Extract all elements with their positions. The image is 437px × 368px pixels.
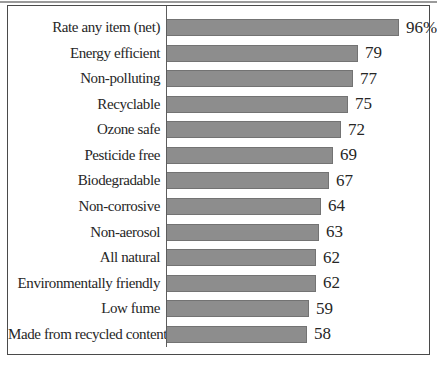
bar xyxy=(166,70,353,87)
bar xyxy=(166,198,321,215)
page-top-rule xyxy=(0,1,437,3)
bar-rows: Rate any item (net) 96% Energy efficient… xyxy=(8,6,429,354)
bar-row: Rate any item (net) 96% xyxy=(8,15,429,41)
bar-row: Ozone safe 72 xyxy=(8,117,429,143)
bar-row: Environmentally friendly 62 xyxy=(8,270,429,296)
bar-label: Pesticide free xyxy=(8,147,166,164)
bar-value: 67 xyxy=(336,171,353,191)
bar xyxy=(166,224,319,241)
bar-chart-frame: Rate any item (net) 96% Energy efficient… xyxy=(7,5,430,355)
bar-label: Non-aerosol xyxy=(8,224,166,241)
bar-value: 72 xyxy=(348,120,365,140)
bar-row: Recyclable 75 xyxy=(8,92,429,118)
bar xyxy=(166,45,358,62)
bar-value: 77 xyxy=(360,69,377,89)
bar-row: Non-polluting 77 xyxy=(8,66,429,92)
bar xyxy=(166,326,307,343)
bar-row: All natural 62 xyxy=(8,245,429,271)
bar-row: Pesticide free 69 xyxy=(8,143,429,169)
bar-value: 59 xyxy=(316,299,333,319)
bar-label: Recyclable xyxy=(8,96,166,113)
bar-value: 79 xyxy=(365,43,382,63)
bar-value: 63 xyxy=(326,222,343,242)
bar xyxy=(166,300,309,317)
bar-value: 75 xyxy=(355,94,372,114)
bar-row: Biodegradable 67 xyxy=(8,168,429,194)
bar-value: 62 xyxy=(323,273,340,293)
bar-value: 96% xyxy=(406,18,437,38)
bar-label: Biodegradable xyxy=(8,172,166,189)
bar-label: Rate any item (net) xyxy=(8,19,166,36)
axis-baseline xyxy=(166,6,167,347)
bar xyxy=(166,147,333,164)
bar-label: Non-polluting xyxy=(8,70,166,87)
bar xyxy=(166,275,316,292)
bar-label: Low fume xyxy=(8,300,166,317)
bar-value: 62 xyxy=(323,248,340,268)
bar-label: Ozone safe xyxy=(8,121,166,138)
bar-row: Non-aerosol 63 xyxy=(8,219,429,245)
bar-row: Non-corrosive 64 xyxy=(8,194,429,220)
bar xyxy=(166,121,341,138)
bar-label: All natural xyxy=(8,249,166,266)
bar xyxy=(166,96,348,113)
bar-value: 69 xyxy=(340,145,357,165)
bar-value: 64 xyxy=(328,196,345,216)
bar-row: Made from recycled content 58 xyxy=(8,321,429,347)
bar-label: Made from recycled content xyxy=(8,326,166,343)
bar-label: Non-corrosive xyxy=(8,198,166,215)
bar-value: 58 xyxy=(314,324,331,344)
bar xyxy=(166,172,329,189)
bar xyxy=(166,19,399,36)
bar-row: Low fume 59 xyxy=(8,296,429,322)
bar-label: Energy efficient xyxy=(8,45,166,62)
bar-row: Energy efficient 79 xyxy=(8,41,429,67)
bar xyxy=(166,249,316,266)
bar-label: Environmentally friendly xyxy=(8,275,166,292)
